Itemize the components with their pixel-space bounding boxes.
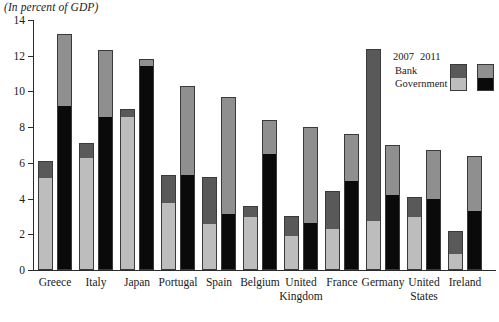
bar-2011 bbox=[303, 127, 318, 270]
x-axis-category-label: Germany bbox=[362, 275, 405, 289]
bar-2011 bbox=[385, 145, 400, 270]
bar-2007 bbox=[284, 216, 299, 270]
bar-group bbox=[120, 20, 161, 270]
bar-segment-government-2007 bbox=[80, 158, 93, 269]
y-axis-tick-mark bbox=[28, 234, 33, 235]
bar-segment-government-2007 bbox=[408, 217, 421, 269]
legend-swatch-bank-2011 bbox=[478, 65, 493, 78]
bar-segment-bank-2011 bbox=[427, 151, 440, 198]
bar-2007 bbox=[448, 231, 463, 270]
y-axis-tick-mark bbox=[28, 56, 33, 57]
chart-title: (In percent of GDP) bbox=[4, 1, 98, 13]
x-axis-category-label-line: Belgium bbox=[240, 276, 280, 288]
x-axis-category-label: Ireland bbox=[449, 275, 482, 289]
bar-segment-government-2011 bbox=[427, 199, 440, 269]
legend-swatch-bank-2007 bbox=[451, 65, 466, 78]
bar-2011 bbox=[221, 97, 236, 270]
bar-segment-government-2011 bbox=[386, 195, 399, 269]
legend-label-government: Government bbox=[395, 78, 448, 89]
bar-segment-government-2011 bbox=[222, 214, 235, 269]
y-axis-tick-label: 6 bbox=[19, 157, 25, 169]
bar-segment-government-2011 bbox=[263, 154, 276, 269]
bar-segment-government-2011 bbox=[345, 181, 358, 269]
bar-segment-bank-2007 bbox=[285, 217, 298, 236]
x-axis-category-label-line: France bbox=[326, 276, 357, 288]
bar-2011 bbox=[57, 34, 72, 270]
bar-segment-government-2007 bbox=[121, 117, 134, 269]
bar-segment-government-2007 bbox=[326, 229, 339, 269]
bar-2011 bbox=[139, 59, 154, 270]
y-axis-tick-mark bbox=[28, 163, 33, 164]
x-axis-line bbox=[33, 270, 496, 271]
bar-segment-bank-2011 bbox=[386, 146, 399, 195]
x-axis-category-label-line: Portugal bbox=[159, 276, 198, 288]
bar-2007 bbox=[202, 177, 217, 270]
x-axis-category-label: UnitedKingdom bbox=[279, 275, 322, 303]
y-axis-tick-label: 14 bbox=[14, 14, 26, 26]
legend-label-bank: Bank bbox=[395, 65, 417, 76]
bar-segment-government-2007 bbox=[39, 178, 52, 269]
bar-segment-bank-2007 bbox=[244, 207, 257, 217]
bar-2007 bbox=[161, 175, 176, 270]
x-axis-category-label-line: Ireland bbox=[449, 276, 482, 288]
bar-2007 bbox=[407, 197, 422, 270]
bar-segment-bank-2007 bbox=[121, 110, 134, 117]
legend-year-2011: 2011 bbox=[420, 51, 441, 62]
bar-2007 bbox=[325, 191, 340, 270]
bar-segment-bank-2011 bbox=[263, 121, 276, 154]
y-axis-tick-label: 8 bbox=[19, 121, 25, 133]
bar-2011 bbox=[426, 150, 441, 270]
x-axis-category-label: Japan bbox=[124, 275, 150, 289]
x-axis-category-label-line: Greece bbox=[39, 276, 72, 288]
bar-group bbox=[79, 20, 120, 270]
bar-segment-government-2007 bbox=[367, 221, 380, 269]
bar-segment-government-2011 bbox=[99, 117, 112, 269]
x-axis-category-label: Italy bbox=[85, 275, 106, 289]
bar-group bbox=[243, 20, 284, 270]
bar-segment-bank-2007 bbox=[367, 50, 380, 222]
legend-swatch-government-2011 bbox=[478, 78, 493, 91]
chart-container: (In percent of GDP) 02468101214 GreeceIt… bbox=[0, 0, 499, 322]
bar-segment-government-2011 bbox=[140, 66, 153, 269]
bar-segment-bank-2007 bbox=[449, 232, 462, 254]
bar-group bbox=[202, 20, 243, 270]
y-axis-tick-label: 10 bbox=[14, 85, 26, 97]
legend-year-2007: 2007 bbox=[393, 51, 414, 62]
legend-swatch-government-2007 bbox=[451, 78, 466, 91]
bar-segment-bank-2007 bbox=[203, 178, 216, 223]
bar-2011 bbox=[98, 50, 113, 270]
y-axis-tick-mark bbox=[28, 199, 33, 200]
bar-segment-bank-2007 bbox=[162, 176, 175, 202]
bar-segment-government-2007 bbox=[162, 203, 175, 269]
bar-2007 bbox=[38, 161, 53, 270]
y-axis-tick-label: 0 bbox=[19, 264, 25, 276]
x-axis-category-label-line: States bbox=[408, 289, 439, 303]
bar-2007 bbox=[120, 109, 135, 270]
x-axis-category-label-line: United bbox=[408, 276, 439, 288]
x-axis-category-label-line: Italy bbox=[85, 276, 106, 288]
bar-segment-bank-2011 bbox=[99, 51, 112, 116]
bar-2007 bbox=[243, 206, 258, 270]
bar-group bbox=[38, 20, 79, 270]
y-axis-tick-label: 2 bbox=[19, 228, 25, 240]
bar-2011 bbox=[344, 134, 359, 270]
bar-segment-government-2011 bbox=[468, 211, 481, 269]
x-axis-category-label-line: Spain bbox=[206, 276, 232, 288]
bar-segment-bank-2011 bbox=[345, 135, 358, 181]
bar-2007 bbox=[366, 49, 381, 270]
bar-segment-bank-2007 bbox=[408, 198, 421, 217]
bar-segment-bank-2007 bbox=[80, 144, 93, 158]
legend-swatch-2011 bbox=[477, 64, 494, 91]
bar-group bbox=[284, 20, 325, 270]
bar-segment-bank-2011 bbox=[181, 87, 194, 175]
y-axis-tick-mark bbox=[28, 127, 33, 128]
bar-segment-bank-2011 bbox=[304, 128, 317, 223]
x-axis-category-label-line: Germany bbox=[362, 276, 405, 288]
x-axis-category-label: France bbox=[326, 275, 357, 289]
bar-segment-bank-2007 bbox=[39, 162, 52, 178]
bar-segment-government-2007 bbox=[203, 224, 216, 269]
bar-segment-bank-2011 bbox=[222, 98, 235, 214]
y-axis-tick-label: 12 bbox=[14, 50, 26, 62]
bar-segment-government-2011 bbox=[181, 175, 194, 269]
y-axis-tick-mark bbox=[28, 270, 33, 271]
